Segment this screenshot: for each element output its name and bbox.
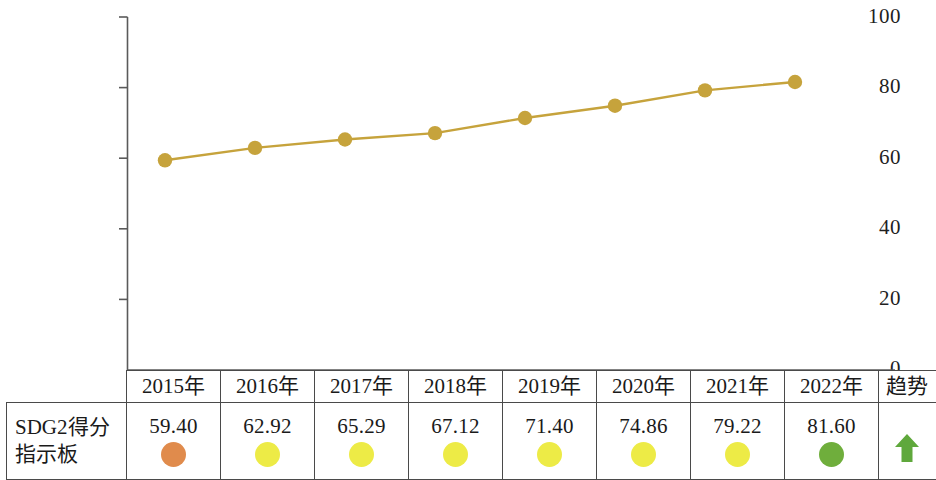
data-point-marker [788,75,802,89]
score-value: 74.86 [619,415,668,437]
column-header-2022: 2022年 [785,371,879,403]
series-sdg2-score [158,75,802,168]
sdg2-indicator-table: 2015年 2016年 2017年 2018年 2019年 2020年 2021… [6,370,936,480]
score-value: 59.40 [149,415,198,437]
series-markers [158,75,802,168]
column-header-2019: 2019年 [503,371,597,403]
status-dot [443,442,468,467]
column-header-2018: 2018年 [409,371,503,403]
status-dot [725,442,750,467]
column-header-trend: 趋势 [879,371,936,403]
chart-canvas [0,0,901,375]
status-dot [349,442,374,467]
score-value: 81.60 [807,415,856,437]
status-dot [631,442,656,467]
data-point-marker [608,99,622,113]
table-corner-blank [7,371,127,403]
arrow-up-icon [894,433,920,463]
score-value: 71.40 [525,415,574,437]
score-cell-2018: 67.12 [409,403,503,480]
table-header-row: 2015年 2016年 2017年 2018年 2019年 2020年 2021… [7,371,936,403]
trend-cell [879,403,936,480]
data-point-marker [158,153,172,167]
score-cell-2020: 74.86 [597,403,691,480]
score-cell-2021: 79.22 [691,403,785,480]
score-cell-2017: 65.29 [315,403,409,480]
status-dot [819,442,844,467]
row-label-line1: SDG2得分 [15,414,120,441]
score-cell-2019: 71.40 [503,403,597,480]
score-cell-2016: 62.92 [221,403,315,480]
score-cell-2015: 59.40 [127,403,221,480]
data-point-marker [338,132,352,146]
data-point-marker [248,141,262,155]
column-header-2016: 2016年 [221,371,315,403]
column-header-2021: 2021年 [691,371,785,403]
score-value: 62.92 [243,415,292,437]
data-point-marker [428,126,442,140]
data-point-marker [698,83,712,97]
line-chart: 100 80 60 40 20 0 [0,0,901,375]
row-label-sdg2-dashboard: SDG2得分 指示板 [7,403,127,480]
status-dot [161,442,186,467]
table-row: SDG2得分 指示板 59.40 62.92 [7,403,936,480]
row-label-line2: 指示板 [15,441,120,468]
status-dot [255,442,280,467]
column-header-2020: 2020年 [597,371,691,403]
data-point-marker [518,111,532,125]
status-dot [537,442,562,467]
score-cell-2022: 81.60 [785,403,879,480]
column-header-2015: 2015年 [127,371,221,403]
score-value: 79.22 [713,415,762,437]
score-value: 65.29 [337,415,386,437]
score-value: 67.12 [431,415,480,437]
column-header-2017: 2017年 [315,371,409,403]
